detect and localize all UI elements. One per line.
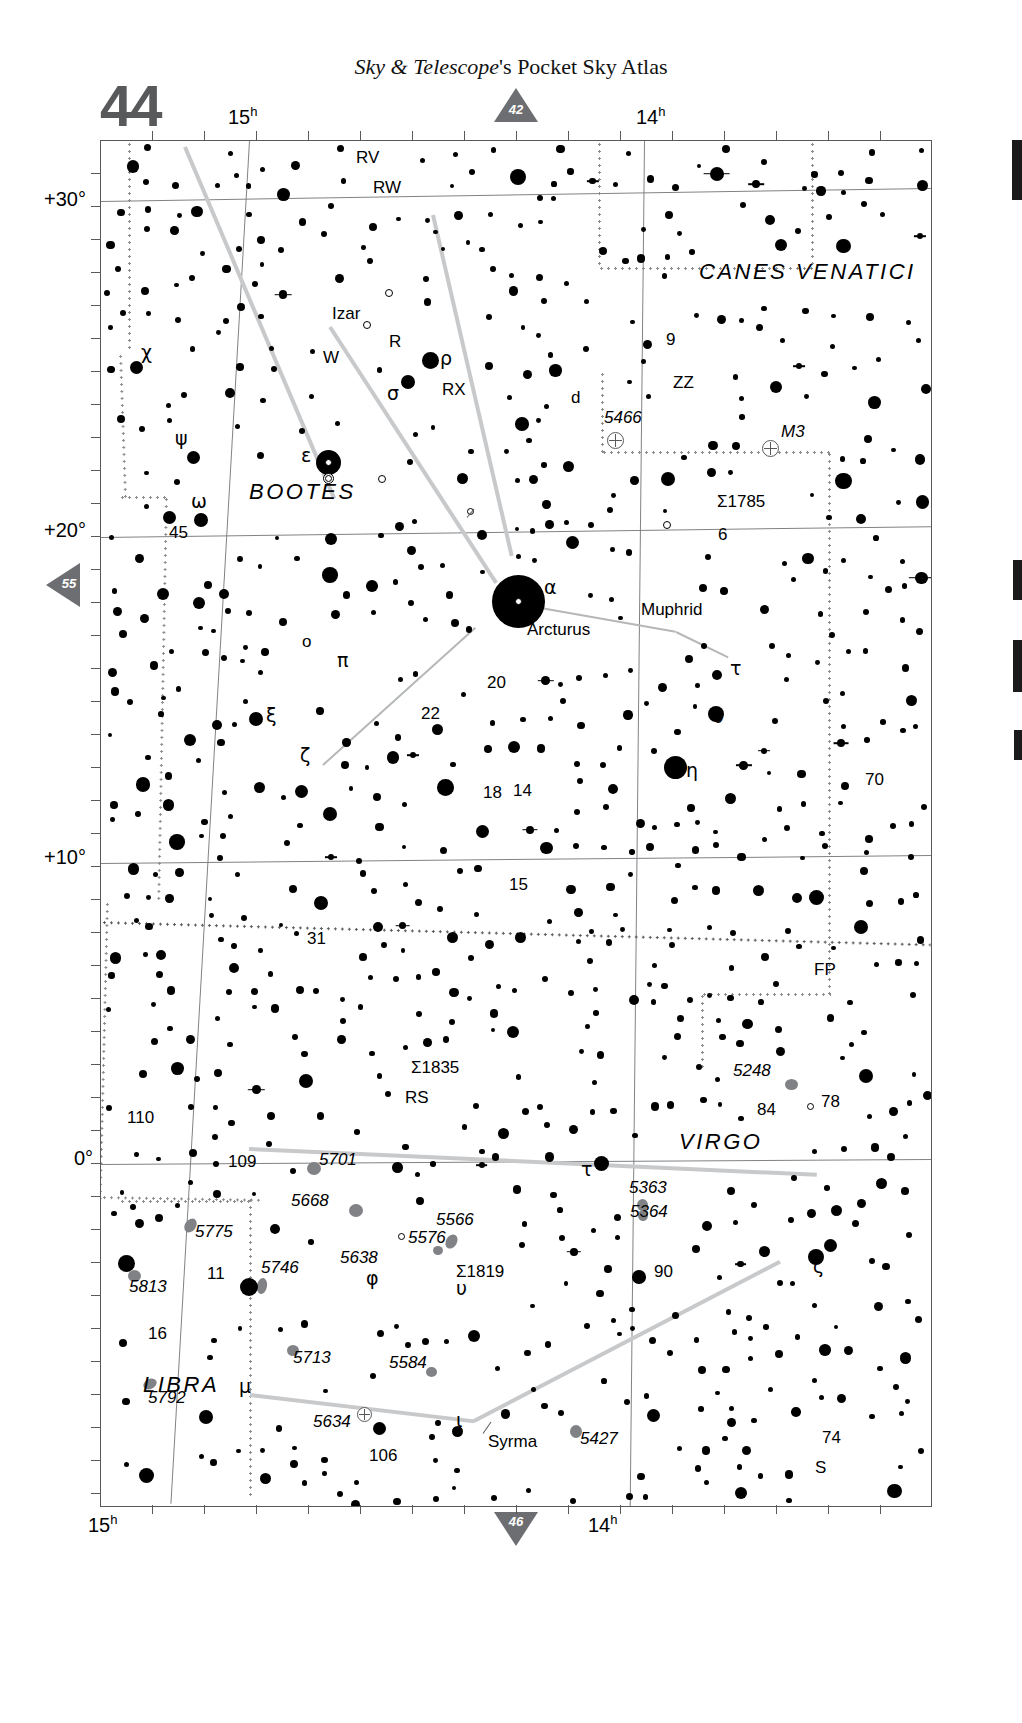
field-star xyxy=(496,984,501,989)
field-star xyxy=(128,863,140,875)
galaxy-5668[interactable] xyxy=(349,1204,363,1217)
axis-tick xyxy=(204,1505,205,1514)
field-star xyxy=(821,371,827,377)
axis-tick xyxy=(91,437,100,438)
galaxy-5576[interactable] xyxy=(433,1246,443,1255)
field-star xyxy=(551,196,556,201)
field-star xyxy=(393,976,399,982)
field-star xyxy=(194,1076,200,1082)
field-star xyxy=(268,971,273,976)
star-11-vir[interactable] xyxy=(199,1410,213,1424)
axis-tick xyxy=(91,965,100,966)
star-14-boo[interactable] xyxy=(515,932,526,943)
field-star xyxy=(491,1495,497,1501)
star-78-vir[interactable] xyxy=(824,1239,837,1252)
star-tau-boo[interactable] xyxy=(725,793,736,804)
field-star xyxy=(135,811,141,817)
galaxy-5248[interactable] xyxy=(785,1079,798,1090)
star-rho-boo[interactable] xyxy=(422,352,439,369)
axis-tick xyxy=(91,173,100,174)
field-star xyxy=(226,989,232,995)
star-phi-vir[interactable] xyxy=(373,1422,386,1435)
star-16-lib[interactable] xyxy=(139,1468,154,1483)
chart-link-up[interactable]: 42 xyxy=(494,88,538,122)
star-o-boo[interactable] xyxy=(295,785,308,798)
star-6-boo[interactable] xyxy=(712,670,722,680)
field-star xyxy=(890,823,896,829)
galaxy-5584[interactable] xyxy=(426,1367,437,1377)
field-star xyxy=(564,520,569,525)
field-star xyxy=(302,1480,308,1486)
label-15: 15 xyxy=(509,876,528,893)
star-22-boo[interactable] xyxy=(432,724,443,735)
boundary-boo-her-1 xyxy=(119,353,127,498)
star-xi-boo[interactable] xyxy=(249,712,263,726)
variable-fp-vir[interactable] xyxy=(807,1103,814,1110)
star-70-vir[interactable] xyxy=(854,920,868,934)
field-star xyxy=(212,720,222,730)
field-star xyxy=(462,1124,467,1129)
field-star xyxy=(840,1056,845,1061)
field-star xyxy=(707,468,716,477)
star-84-vir[interactable] xyxy=(759,1246,770,1257)
field-star xyxy=(563,461,574,472)
star-omega-boo[interactable] xyxy=(194,513,208,527)
star-90-vir[interactable] xyxy=(647,1409,660,1422)
field-star xyxy=(270,1224,280,1234)
chart-link-down[interactable]: 46 xyxy=(494,1512,538,1546)
field-star xyxy=(707,993,712,998)
field-star xyxy=(136,777,150,791)
star-109-vir[interactable] xyxy=(240,1278,258,1296)
star-d-boo[interactable] xyxy=(566,536,579,549)
field-star xyxy=(812,1303,817,1308)
star-20-boo[interactable] xyxy=(476,825,489,838)
globular-5634[interactable] xyxy=(357,1407,372,1422)
field-star xyxy=(361,245,366,250)
star-nu-boo[interactable] xyxy=(477,530,487,540)
globular-5466[interactable] xyxy=(607,432,624,449)
star-tau-vir[interactable] xyxy=(594,1156,609,1171)
field-star xyxy=(567,168,573,174)
field-star xyxy=(370,1373,376,1379)
field-star xyxy=(402,802,407,807)
field-star xyxy=(454,1468,460,1474)
double-star-bar xyxy=(325,857,337,859)
field-star xyxy=(667,1350,673,1356)
star-9-cvn[interactable] xyxy=(661,472,675,486)
field-star xyxy=(554,828,559,833)
field-star xyxy=(281,795,286,800)
field-star xyxy=(545,1341,551,1347)
field-star xyxy=(736,1040,743,1047)
variable-zz-boo[interactable] xyxy=(663,521,671,529)
variable-r-boo[interactable] xyxy=(378,475,386,483)
field-star xyxy=(646,843,654,851)
variable-rs-vir[interactable] xyxy=(398,1233,405,1240)
field-star xyxy=(144,504,149,509)
field-star xyxy=(507,395,512,400)
star-pi-boo[interactable] xyxy=(323,807,337,821)
field-star xyxy=(223,318,229,324)
variable-rw-boo[interactable] xyxy=(363,321,371,329)
field-star xyxy=(450,762,456,768)
star-epsilon-boo-izar[interactable] xyxy=(316,450,341,475)
chart-link-left[interactable]: 55 xyxy=(46,563,80,607)
field-star xyxy=(577,722,584,729)
star-chart[interactable]: 5466 M3 Σ1785 Σ1835 5248 5701 5668 5566 … xyxy=(100,140,932,1507)
globular-m3[interactable] xyxy=(762,440,779,457)
star-psi-boo[interactable] xyxy=(187,451,200,464)
star-110-vir[interactable] xyxy=(118,1255,135,1272)
field-star xyxy=(566,885,575,894)
field-star xyxy=(254,782,265,793)
field-star xyxy=(422,1338,429,1345)
field-star xyxy=(577,778,583,784)
variable-rv-boo[interactable] xyxy=(385,289,393,297)
star-15-boo[interactable] xyxy=(507,1026,519,1038)
star-zeta-boo[interactable] xyxy=(314,896,328,910)
label-rs: RS xyxy=(405,1089,429,1106)
constellation-virgo: VIRGO xyxy=(679,1131,762,1153)
star-eta-boo-muphrid[interactable] xyxy=(664,756,687,779)
page-edge-artifact-1 xyxy=(1012,140,1022,200)
star-31-boo[interactable] xyxy=(299,1074,313,1088)
star-18-boo[interactable] xyxy=(485,940,494,949)
star-sigma-boo[interactable] xyxy=(401,375,415,389)
